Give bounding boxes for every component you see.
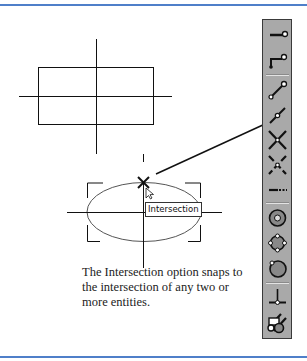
toolbar-button-endpoint-line-snap[interactable] <box>265 78 290 102</box>
intersection-tooltip: Intersection <box>145 202 202 217</box>
leader-line <box>156 124 265 174</box>
snap-settings-icon <box>264 313 289 337</box>
apparent-intersection-icon <box>265 153 290 177</box>
center-icon <box>265 206 290 230</box>
bracket-top-left <box>88 183 104 198</box>
toolbar-separator <box>266 282 289 284</box>
toolbar-button-intersection-snap[interactable] <box>265 128 290 152</box>
line-endpoints-icon <box>265 78 290 102</box>
toolbar-button-extension-snap[interactable] <box>265 178 290 202</box>
toolbar-button-snap-settings[interactable] <box>264 313 289 337</box>
figure-caption: The Intersection option snaps to the int… <box>82 265 252 310</box>
bracket-bottom-right <box>188 225 201 242</box>
bracket-bottom-left <box>88 225 101 242</box>
object-snap-toolbar <box>262 19 292 339</box>
cursor-arrow-icon <box>146 188 154 199</box>
line-endpoint-icon <box>265 23 290 47</box>
intersection-icon <box>265 128 290 152</box>
toolbar-button-tangent-snap[interactable] <box>265 256 290 280</box>
toolbar-separator <box>266 202 289 204</box>
toolbar-button-perpendicular-snap[interactable] <box>265 286 290 310</box>
extension-icon <box>265 178 290 202</box>
toolbar-button-midpoint-snap[interactable] <box>265 103 290 127</box>
bracket-top-right <box>185 183 201 198</box>
toolbar-bottom-edge <box>262 339 292 340</box>
example-rectangle-with-centerlines <box>19 39 172 154</box>
toolbar-button-apparent-intersection-snap[interactable] <box>265 153 290 177</box>
toolbar-separator <box>266 74 289 76</box>
toolbar-button-center-snap[interactable] <box>265 206 290 230</box>
toolbar-button-endpoint-snap[interactable] <box>265 23 290 47</box>
tangent-icon <box>265 256 290 280</box>
midpoint-icon <box>265 103 290 127</box>
toolbar-button-polyline-endpoint-snap[interactable] <box>265 48 290 72</box>
quadrant-icon <box>265 231 290 255</box>
toolbar-button-quadrant-snap[interactable] <box>265 231 290 255</box>
perpendicular-icon <box>265 286 290 310</box>
polyline-endpoint-icon <box>265 48 290 72</box>
